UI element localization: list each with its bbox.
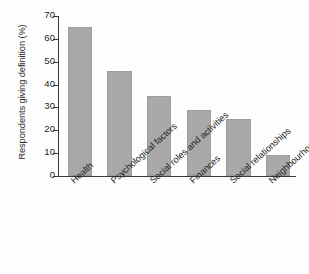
y-tick-label: 10 (44, 146, 55, 157)
bar-chart-figure: Respondents giving definition (%) 010203… (0, 0, 309, 274)
x-axis-line (58, 176, 296, 177)
y-tick-label: 60 (44, 32, 55, 43)
y-tick-label: 50 (44, 55, 55, 66)
x-axis-labels: HealthPsychological factorsSocial roles … (58, 178, 309, 274)
y-tick-label: 0 (50, 169, 55, 180)
y-axis-line (58, 16, 59, 177)
y-tick-label: 70 (44, 9, 55, 20)
y-tick-label: 30 (44, 100, 55, 111)
y-axis-title: Respondents giving definition (%) (13, 4, 31, 180)
bar (68, 27, 92, 176)
y-tick-label: 20 (44, 123, 55, 134)
y-tick-label: 40 (44, 78, 55, 89)
